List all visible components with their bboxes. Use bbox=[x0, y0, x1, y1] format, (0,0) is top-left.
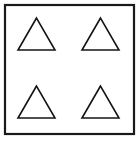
figure-container bbox=[0, 0, 140, 141]
figure-canvas bbox=[0, 0, 140, 141]
